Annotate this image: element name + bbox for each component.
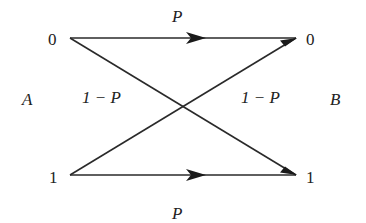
edge-a1-b1-label: P xyxy=(171,204,182,223)
sender-label: A xyxy=(21,90,33,109)
edge-a0-b1-label: 1 − P xyxy=(82,88,121,107)
node-b1-label: 1 xyxy=(306,168,315,187)
node-a0-label: 0 xyxy=(48,30,57,49)
channel-diagram: 0 1 0 1 A B P P 1 − P 1 − P xyxy=(0,0,366,223)
edge-a1-b0-label: 1 − P xyxy=(241,88,280,107)
node-b0-label: 0 xyxy=(306,30,315,49)
node-a1-label: 1 xyxy=(49,168,58,187)
edge-a0-b0-label: P xyxy=(171,7,182,26)
receiver-label: B xyxy=(330,90,341,109)
